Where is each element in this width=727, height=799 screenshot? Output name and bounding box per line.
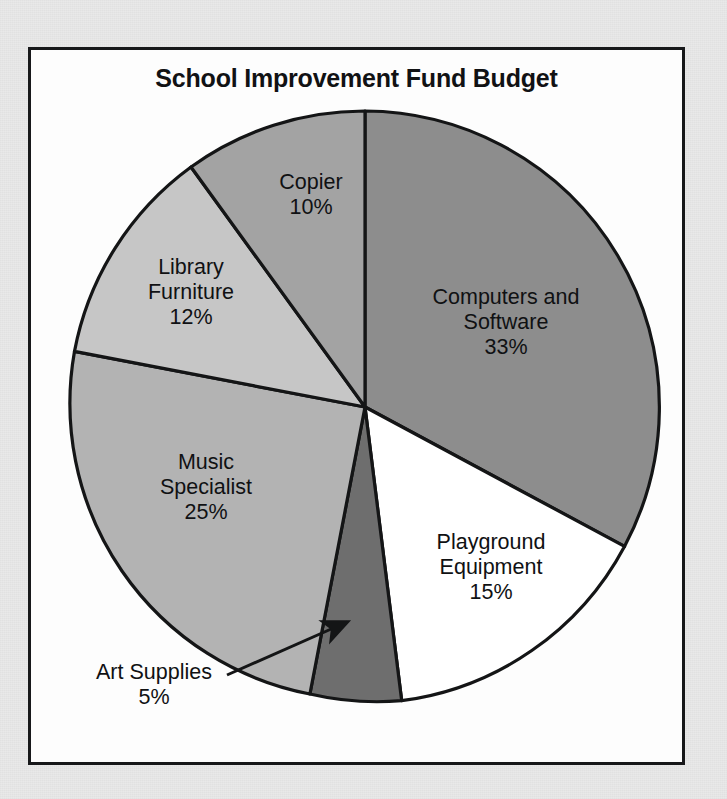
- pie-label-line1: Music: [111, 450, 301, 475]
- pie-label-value: 15%: [386, 580, 596, 605]
- pie-label-value: 5%: [49, 685, 259, 710]
- pie-label-line2: Software: [401, 310, 611, 335]
- pie-label-copier: Copier 10%: [231, 170, 391, 220]
- pie-label-line1: Playground: [386, 530, 596, 555]
- pie-label-value: 33%: [401, 335, 611, 360]
- pie-label-library-furniture: Library Furniture 12%: [111, 255, 271, 330]
- chart-frame: School Improvement Fund Budget: [28, 47, 685, 765]
- pie-label-line1: Copier: [231, 170, 391, 195]
- pie-label-value: 25%: [111, 500, 301, 525]
- figure-page: School Improvement Fund Budget: [0, 0, 727, 799]
- pie-label-line2: Equipment: [386, 555, 596, 580]
- pie-label-line1: Library: [111, 255, 271, 280]
- pie-label-art-supplies: Art Supplies 5%: [49, 660, 259, 710]
- pie-label-computers-and-software: Computers and Software 33%: [401, 285, 611, 360]
- pie-label-music-specialist: Music Specialist 25%: [111, 450, 301, 525]
- pie-label-playground-equipment: Playground Equipment 15%: [386, 530, 596, 605]
- pie-label-value: 10%: [231, 195, 391, 220]
- pie-label-line1: Art Supplies: [49, 660, 259, 685]
- pie-label-line2: Specialist: [111, 475, 301, 500]
- pie-label-value: 12%: [111, 305, 271, 330]
- pie-label-line1: Computers and: [401, 285, 611, 310]
- pie-label-line2: Furniture: [111, 280, 271, 305]
